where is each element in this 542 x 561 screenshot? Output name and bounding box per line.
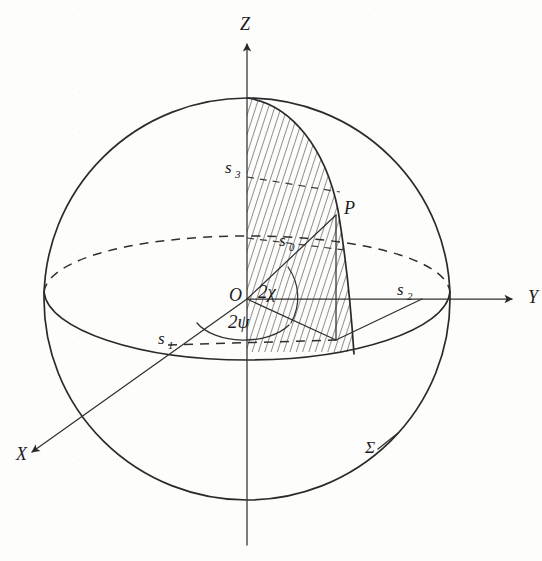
stokes-s2-base: s: [397, 280, 404, 299]
axis-label-x: X: [15, 444, 28, 464]
angle-label-2psi: 2ψ: [228, 311, 251, 332]
axis-label-z: Z: [240, 14, 251, 34]
poincare-sphere-figure: Z Y X O P s 0 s 1 s 2 s 3 2χ 2ψ Σ: [0, 0, 542, 561]
sigma-leader: [378, 433, 398, 449]
stokes-s1-subscript: 1: [168, 339, 174, 351]
stokes-s1-base: s: [158, 329, 165, 348]
stokes-s2-subscript: 2: [407, 290, 413, 302]
angle-label-2chi: 2χ: [258, 281, 277, 302]
stokes-label-s1: s 1: [158, 329, 174, 351]
stokes-s0-base: s: [279, 231, 286, 250]
stokes-label-s3: s 3: [225, 158, 241, 180]
point-p-label: P: [343, 198, 355, 218]
axis-label-y: Y: [528, 287, 540, 307]
stokes-s0-subscript: 0: [289, 241, 295, 253]
poincare-sphere-svg: Z Y X O P s 0 s 1 s 2 s 3 2χ 2ψ Σ: [0, 0, 542, 561]
stokes-s3-base: s: [225, 158, 232, 177]
surface-label-sigma: Σ: [364, 438, 375, 457]
stokes-s3-subscript: 3: [234, 168, 241, 180]
hatched-meridian-sector: [247, 98, 354, 352]
origin-label: O: [229, 285, 242, 305]
x-axis-line: [32, 299, 247, 452]
